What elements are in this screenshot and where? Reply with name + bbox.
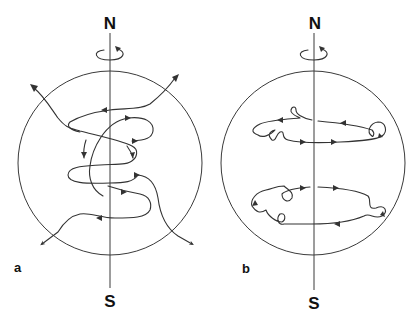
sphere-outline [221, 71, 405, 255]
diagram-canvas: N S a N S b [0, 0, 414, 326]
field-line-1 [34, 88, 192, 244]
panel-label: b [242, 261, 250, 276]
field-line-inner-loop [90, 118, 154, 196]
north-label: N [309, 14, 321, 33]
panel-b: N S b [221, 14, 405, 313]
panel-a: N S a [14, 14, 202, 311]
upper-field-loop [253, 107, 386, 143]
south-label: S [308, 294, 319, 313]
field-line-2 [68, 78, 175, 132]
north-label: N [104, 14, 116, 33]
field-line-3 [42, 186, 151, 244]
south-label: S [104, 292, 115, 311]
lower-field-loop [252, 186, 386, 224]
panel-label: a [14, 260, 22, 275]
